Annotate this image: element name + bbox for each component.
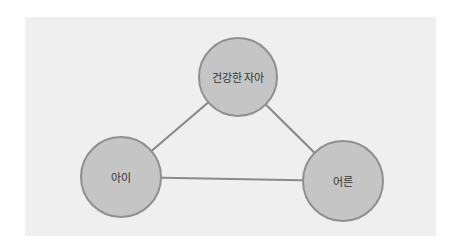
nodes [81, 38, 383, 221]
node-label-healthy-self: 건강한 자아 [212, 69, 264, 85]
node-label-adult: 어른 [333, 173, 352, 189]
node-label-child: 아이 [111, 169, 130, 185]
relationship-diagram [0, 0, 462, 250]
